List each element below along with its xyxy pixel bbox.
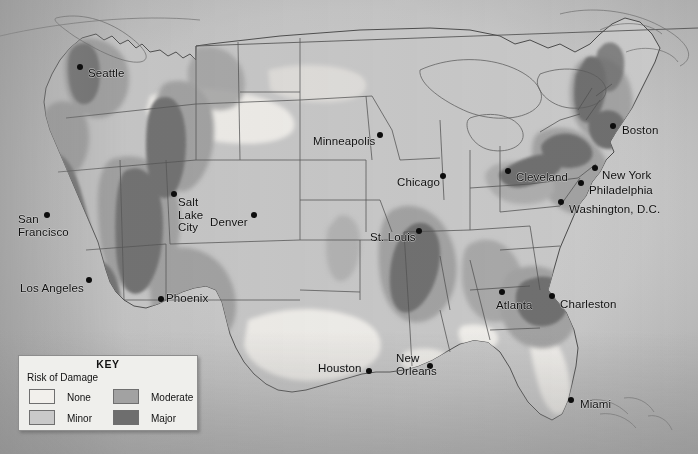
legend-swatch-moderate [113, 389, 139, 404]
city-label-chicago: Chicago [397, 177, 440, 189]
city-label-new-york: New York [602, 170, 651, 182]
legend-key-box: KEY Risk of Damage None Minor Moderate M… [18, 355, 198, 431]
city-label-houston: Houston [318, 363, 362, 375]
city-label-charleston: Charleston [560, 299, 617, 311]
city-label-salt-lake-city: Salt Lake City [178, 196, 203, 234]
city-dot-miami[interactable] [568, 397, 574, 403]
city-dot-los-angeles[interactable] [86, 277, 92, 283]
legend-subtitle: Risk of Damage [27, 372, 98, 383]
earthquake-risk-map-page: SeattleSan FranciscoLos AngelesSalt Lake… [0, 0, 698, 454]
city-label-washington-d-c: Washington, D.C. [569, 204, 660, 216]
legend-label-minor: Minor [67, 413, 92, 424]
city-label-cleveland: Cleveland [516, 172, 568, 184]
city-dot-salt-lake-city[interactable] [171, 191, 177, 197]
city-label-san-francisco: San Francisco [18, 213, 69, 238]
legend-swatch-minor [29, 410, 55, 425]
city-label-new-orleans: New Orleans [396, 352, 437, 377]
city-label-denver: Denver [210, 217, 248, 229]
city-label-philadelphia: Philadelphia [589, 185, 653, 197]
city-dot-boston[interactable] [610, 123, 616, 129]
city-dot-new-york[interactable] [592, 165, 598, 171]
legend-label-moderate: Moderate [151, 392, 193, 403]
city-dot-st-louis[interactable] [416, 228, 422, 234]
city-dot-phoenix[interactable] [158, 296, 164, 302]
city-dot-cleveland[interactable] [505, 168, 511, 174]
city-label-seattle: Seattle [88, 68, 125, 80]
city-label-st-louis: St. Louis [370, 232, 416, 244]
city-label-miami: Miami [580, 399, 611, 411]
city-dot-denver[interactable] [251, 212, 257, 218]
city-dot-philadelphia[interactable] [578, 180, 584, 186]
city-dot-washington-d-c[interactable] [558, 199, 564, 205]
legend-swatch-none [29, 389, 55, 404]
city-dot-minneapolis[interactable] [377, 132, 383, 138]
city-dot-atlanta[interactable] [499, 289, 505, 295]
legend-label-major: Major [151, 413, 176, 424]
city-label-los-angeles: Los Angeles [20, 283, 84, 295]
legend-title: KEY [19, 358, 197, 370]
legend-label-none: None [67, 392, 91, 403]
city-dot-charleston[interactable] [549, 293, 555, 299]
city-label-phoenix: Phoenix [166, 293, 208, 305]
city-label-minneapolis: Minneapolis [313, 136, 375, 148]
city-dot-houston[interactable] [366, 368, 372, 374]
city-dot-seattle[interactable] [77, 64, 83, 70]
city-label-boston: Boston [622, 125, 658, 137]
legend-swatch-major [113, 410, 139, 425]
city-label-atlanta: Atlanta [496, 300, 533, 312]
city-dot-chicago[interactable] [440, 173, 446, 179]
